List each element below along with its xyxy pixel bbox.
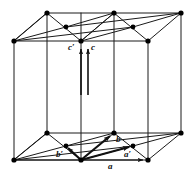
vertex-back-bottom-right: [178, 130, 183, 135]
bottom-face-long-diag-2: [66, 133, 181, 146]
vertex-back-top-left: [44, 10, 49, 15]
cell-edges: [14, 13, 181, 160]
vertex-front-bottom-left: [11, 157, 16, 162]
vertex-front-bottom-right: [145, 157, 150, 162]
top-right-centre-diag-4: [133, 13, 181, 27]
face-centre-bottom-right: [131, 144, 136, 149]
label-b: b: [116, 135, 121, 144]
vertex-front-top-left: [11, 38, 16, 43]
unit-cell-figure: c′ c b b′ a′ a: [0, 0, 194, 175]
face-centre-top-right: [131, 25, 136, 30]
vertex-front-bottom-mid: [78, 157, 83, 162]
vertex-back-bottom-left: [44, 130, 49, 135]
top-face-long-diag-left: [14, 27, 133, 41]
vertex-back-top-mid: [111, 10, 116, 15]
vector-b-prime-arrow: [68, 148, 81, 160]
face-centre-top-left: [64, 25, 69, 30]
label-b-prime: b′: [56, 150, 63, 159]
label-c-prime: c′: [68, 43, 75, 52]
label-c: c: [91, 43, 95, 52]
vertex-front-top-mid: [78, 38, 83, 43]
lattice-diagram-svg: [0, 0, 194, 175]
vertex-back-top-right: [178, 10, 183, 15]
vertex-front-top-right: [145, 38, 150, 43]
top-face-long-diag-right: [66, 13, 181, 27]
lattice-vectors: [14, 49, 143, 160]
label-a: a: [108, 162, 113, 171]
label-a-prime: a′: [124, 150, 131, 159]
face-centre-bottom-left: [64, 144, 69, 149]
top-left-centre-diag-4: [66, 13, 114, 27]
